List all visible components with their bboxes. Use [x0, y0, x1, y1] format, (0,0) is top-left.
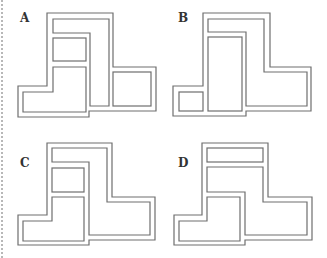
floor-plan-a[interactable]: A [18, 11, 156, 117]
room-small-b [179, 92, 203, 111]
room-small-c [52, 168, 84, 192]
option-label-a: A [19, 11, 30, 25]
option-label-d: D [178, 156, 188, 170]
option-label-c: C [20, 156, 30, 170]
room-right-a [113, 72, 151, 106]
outer-wall-a [18, 13, 156, 117]
floor-plan-c[interactable]: C [18, 143, 155, 245]
room-small-a [53, 38, 86, 61]
corridor-a [53, 19, 109, 106]
room-lower-left-a [23, 67, 86, 112]
room-lower-left-d [179, 197, 240, 241]
outer-wall-d [174, 143, 312, 245]
room-middle-d [207, 167, 307, 235]
room-lower-left-c [23, 197, 84, 241]
option-label-b: B [178, 11, 188, 25]
corridor-b [208, 19, 307, 106]
floor-plan-b[interactable]: B [173, 11, 311, 116]
floor-plan-d[interactable]: D [174, 143, 312, 245]
room-top-strip-d [207, 148, 263, 162]
room-tall-b [208, 37, 242, 111]
floor-plan-options: A B C D [0, 0, 327, 258]
outer-wall-c [18, 143, 155, 245]
